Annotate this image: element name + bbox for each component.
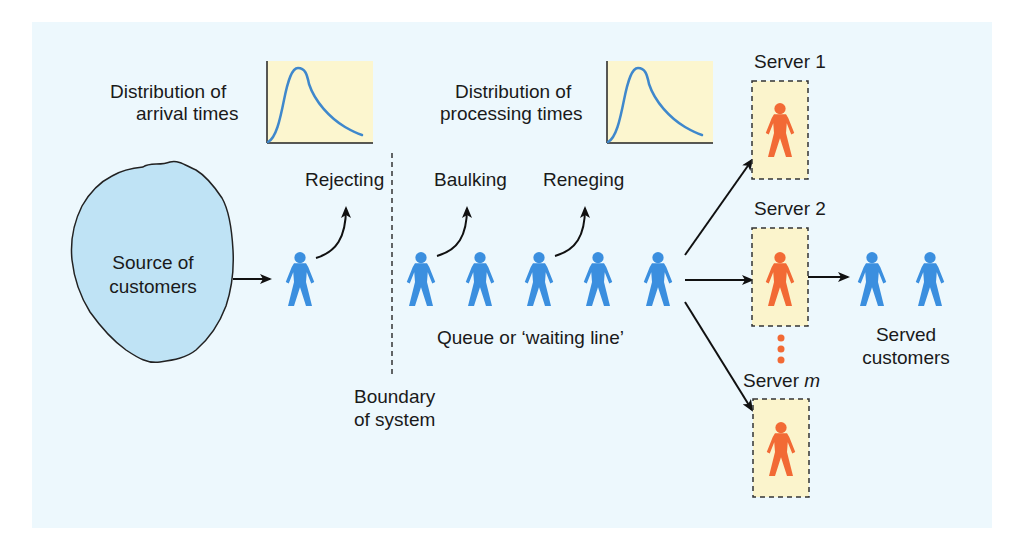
baulking-label: Baulking (434, 169, 507, 190)
boundary-label-line2: of system (354, 409, 435, 430)
arrival-distribution-label-line1: Distribution of (110, 81, 227, 102)
served-label-line2: customers (862, 347, 950, 368)
reneging-label: Reneging (543, 169, 624, 190)
server-1-label: Server 1 (754, 51, 826, 72)
server-m-label: Server m (743, 370, 820, 391)
processing-distribution-label-line2: processing times (440, 103, 583, 124)
server-m: Server m (743, 370, 820, 497)
more-servers-ellipsis (778, 335, 785, 364)
server-2-label: Server 2 (754, 198, 826, 219)
processing-distribution-label-line1: Distribution of (455, 81, 572, 102)
queue-label: Queue or ‘waiting line’ (437, 327, 624, 348)
boundary-label-line1: Boundary (354, 386, 436, 407)
source-label-line1: Source of (112, 252, 194, 273)
source-label-line2: customers (109, 276, 197, 297)
queuing-system-diagram: Distribution of arrival times Distributi… (0, 0, 1023, 547)
arrival-distribution-label-line2: arrival times (136, 103, 238, 124)
rejecting-label: Rejecting (305, 169, 384, 190)
served-label-line1: Served (876, 324, 936, 345)
